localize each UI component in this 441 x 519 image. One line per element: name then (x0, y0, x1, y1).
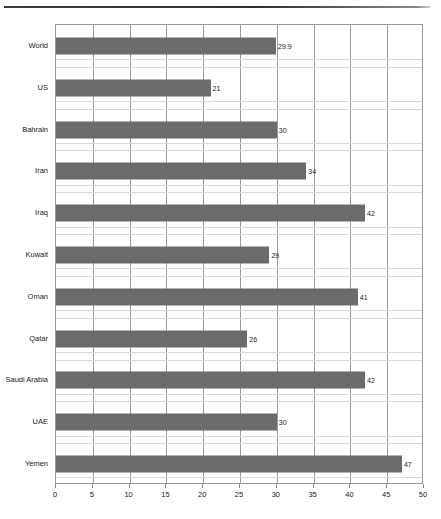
y-axis-label: US (38, 82, 48, 91)
x-axis-tick (276, 484, 277, 488)
bar-value-label: 42 (365, 210, 375, 217)
x-axis-tick-label: 50 (419, 490, 427, 499)
y-axis-label: Bahrain (22, 124, 48, 133)
gridline-horizontal-minor (56, 352, 422, 353)
bar-value-label: 41 (358, 293, 368, 300)
bar (56, 456, 402, 473)
bar (56, 330, 247, 347)
gridline-horizontal-minor (56, 477, 422, 478)
bar (56, 121, 277, 138)
plot-area: 29.921303442294126423047 (55, 24, 423, 484)
gridline-horizontal-minor (56, 268, 422, 269)
gridline-horizontal-minor (56, 143, 422, 144)
x-axis-tick (349, 484, 350, 488)
y-axis-label: Saudi Arabia (5, 375, 48, 384)
bar-value-label: 21 (211, 84, 221, 91)
gridline-horizontal-minor (56, 310, 422, 311)
bar-row: 29 (56, 234, 422, 276)
bar-value-label: 47 (402, 461, 412, 468)
bar-row: 21 (56, 67, 422, 109)
y-axis-label: Qatar (29, 333, 48, 342)
bar-value-label: 34 (306, 168, 316, 175)
y-axis-label: World (29, 40, 48, 49)
bar (56, 414, 277, 431)
x-axis-tick (92, 484, 93, 488)
x-axis-tick (313, 484, 314, 488)
bar-value-label: 29.9 (276, 42, 292, 49)
y-axis-label: Iran (35, 166, 48, 175)
x-axis-tick (386, 484, 387, 488)
x-axis-tick-label: 25 (235, 490, 243, 499)
bar-value-label: 30 (277, 126, 287, 133)
bar (56, 163, 306, 180)
bar (56, 79, 211, 96)
bar (56, 37, 276, 54)
x-axis-tick-label: 40 (345, 490, 353, 499)
x-axis-tick-label: 20 (198, 490, 206, 499)
bar-row: 47 (56, 443, 422, 485)
x-axis-tick (129, 484, 130, 488)
bar-row: 41 (56, 276, 422, 318)
x-axis-tick-label: 5 (90, 490, 94, 499)
bar (56, 205, 365, 222)
bar-row: 26 (56, 318, 422, 360)
x-axis-tick-label: 35 (308, 490, 316, 499)
x-axis-tick (423, 484, 424, 488)
x-axis-tick-label: 0 (53, 490, 57, 499)
gridline-horizontal-minor (56, 59, 422, 60)
bar-row: 29.9 (56, 25, 422, 67)
bar-row: 42 (56, 360, 422, 402)
gridline-horizontal-minor (56, 101, 422, 102)
bar-row: 30 (56, 109, 422, 151)
bar-chart: WorldUSBahrainIranIraqKuwaitOmanQatarSau… (0, 0, 441, 519)
x-axis-tick (202, 484, 203, 488)
bar (56, 288, 358, 305)
gridline-horizontal-minor (56, 185, 422, 186)
y-axis-label: Oman (28, 291, 48, 300)
x-axis-tick-label: 10 (124, 490, 132, 499)
bar (56, 246, 269, 263)
y-axis-label: Kuwait (25, 250, 48, 259)
x-axis-tick-label: 30 (272, 490, 280, 499)
x-axis: 05101520253035404550 (55, 484, 423, 504)
gridline-horizontal-minor (56, 394, 422, 395)
y-axis-label: Yemen (25, 459, 48, 468)
x-axis-tick (55, 484, 56, 488)
gridline-horizontal-minor (56, 436, 422, 437)
bar-value-label: 29 (269, 251, 279, 258)
y-axis-category-labels: WorldUSBahrainIranIraqKuwaitOmanQatarSau… (0, 24, 52, 484)
x-axis-tick (165, 484, 166, 488)
x-axis-tick-label: 15 (161, 490, 169, 499)
bar (56, 372, 365, 389)
y-axis-label: UAE (33, 417, 48, 426)
bar-value-label: 42 (365, 377, 375, 384)
y-axis-label: Iraq (35, 208, 48, 217)
x-axis-tick (239, 484, 240, 488)
x-axis-tick-label: 45 (382, 490, 390, 499)
bar-value-label: 30 (277, 419, 287, 426)
gridline-horizontal-minor (56, 227, 422, 228)
bar-value-label: 26 (247, 335, 257, 342)
